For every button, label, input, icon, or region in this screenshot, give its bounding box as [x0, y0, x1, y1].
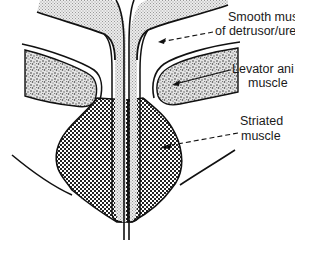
smooth-muscle-label-line1: Smooth muscle [228, 10, 295, 25]
striated-muscle-label-line1: Striated [240, 114, 283, 129]
smooth-muscle-region [37, 0, 228, 240]
striated-muscle-label-line2: muscle [241, 129, 281, 144]
levator-ani-label-line2: muscle [248, 76, 288, 91]
smooth-muscle-label-line2: of detrusor/urethra [215, 24, 295, 39]
levator-ani-label-line1: Levator ani [232, 62, 294, 77]
